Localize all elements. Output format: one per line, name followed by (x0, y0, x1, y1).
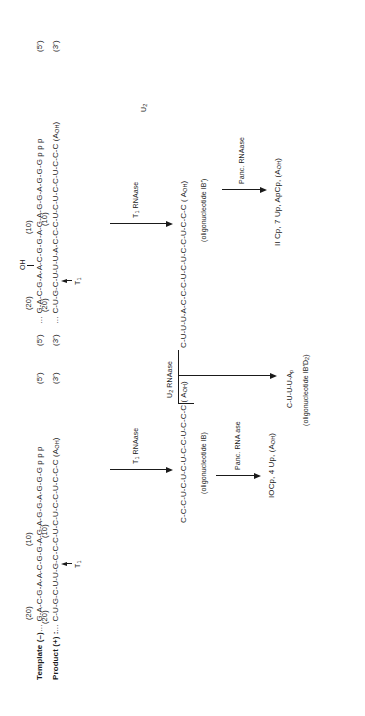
cut-arrow-stem (66, 563, 72, 564)
u2-arrow-icon (270, 373, 277, 379)
t1-right-arrow-line (110, 223, 166, 224)
u2-branch-horizontal (178, 350, 179, 404)
right-cut-label: T1 (74, 277, 83, 285)
left-template-end: (5′) (36, 372, 44, 384)
right-product-pos10: (10) (41, 212, 49, 226)
panc-right-arrow-line (222, 189, 260, 190)
right-product-pos20: (20) (41, 298, 49, 312)
oligo-ib-name: (oligonucleotide IB) (200, 432, 207, 494)
right-template-sequence: … G-A-C-G-A-A-C-G-G-A-G-A-G-G-A-G-G-G p … (36, 138, 44, 324)
panc-left-enzyme: Panc. RNA ase (234, 421, 241, 470)
t1-left-arrow-icon (166, 467, 173, 473)
t1-right-enzyme: T1 RNAase (132, 182, 141, 218)
right-template-pos10: (10) (25, 220, 33, 234)
left-product-pos20: (20) (41, 610, 49, 624)
oh-label: OH (19, 259, 26, 270)
right-product-end: (3′) (52, 40, 60, 52)
oligo-d2-name: (oligonucleotide IB′D2) (302, 354, 311, 426)
template-label: Template (–) (36, 632, 44, 680)
panc-right-products: II Cp, 7 Up, ApCp, (AOH) (274, 158, 283, 246)
left-product-sequence: … C-U-G-C-U-U-G-C-C-C-U-C-U-C-C-U-C-C-C … (52, 438, 61, 633)
oligo-ib-prime-name: (oligonucleotide IB′) (200, 179, 207, 242)
left-template-pos20: (20) (25, 606, 33, 620)
right-template-end: (5′) (36, 40, 44, 52)
left-template-pos10: (10) (25, 532, 33, 546)
panc-right-enzyme: Panc. RNAase (238, 137, 245, 184)
rna-digestion-diagram: Template (–) Product (+) : (20) (10) … G… (0, 0, 365, 716)
u2-enzyme: U2 RNAase (166, 361, 175, 398)
oligo-ib-prime-sequence: C-U-U-U-A-C-C-C-U-C-U-C-C-U-C-C-C ( AOH) (180, 181, 189, 348)
u2-branch-left-stub (178, 403, 194, 404)
panc-left-products: IOCp, 4 Up, (AOH) (268, 433, 277, 498)
product-label: Product (+) : (52, 631, 60, 680)
panc-left-arrow-line (216, 475, 254, 476)
left-product-pos10: (10) (41, 524, 49, 538)
u2-cut-label: U2 (140, 104, 149, 112)
right-template-pos20: (20) (25, 296, 33, 310)
right-template-start: (5′) (36, 334, 44, 346)
right-product-start: (3′) (52, 334, 60, 346)
left-product-end: (3′) (52, 372, 60, 384)
left-template-sequence: … G-A-C-G-A-A-C-G-G-A-G-A-G-G-A-G-G-G p … (36, 446, 44, 632)
oh-bond (27, 265, 34, 266)
t1-left-arrow-line (110, 469, 166, 470)
panc-left-arrow-icon (254, 473, 261, 479)
t1-left-enzyme: T1 RNAase (132, 428, 141, 464)
u2-branch-vertical (178, 375, 270, 376)
left-cut-label: T1 (74, 560, 83, 568)
oligo-d2-sequence: C-U-U-U-Ap (286, 370, 295, 408)
right-product-sequence: … C-U-G-C-U-U-U-A-C-C-C-U-C-U-C-C-U-C-C-… (52, 122, 61, 324)
t1-right-arrow-icon (166, 221, 173, 227)
panc-right-arrow-icon (260, 187, 267, 193)
cut-arrow-stem (66, 280, 72, 281)
